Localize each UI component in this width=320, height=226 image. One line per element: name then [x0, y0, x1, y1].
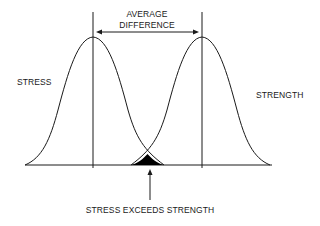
overlap-region	[131, 154, 164, 165]
stress-curve	[25, 37, 164, 165]
stress-label: STRESS	[17, 77, 52, 87]
difference-label: DIFFERENCE	[119, 20, 174, 30]
strength-label: STRENGTH	[256, 90, 304, 100]
arrowhead-up-icon	[148, 169, 153, 175]
arrowhead-left-icon	[96, 30, 102, 35]
stress-strength-diagram	[0, 0, 320, 226]
strength-curve	[131, 37, 270, 165]
arrowhead-right-icon	[193, 30, 199, 35]
overlap-label: STRESS EXCEEDS STRENGTH	[86, 205, 214, 215]
average-label: AVERAGE	[126, 9, 167, 19]
